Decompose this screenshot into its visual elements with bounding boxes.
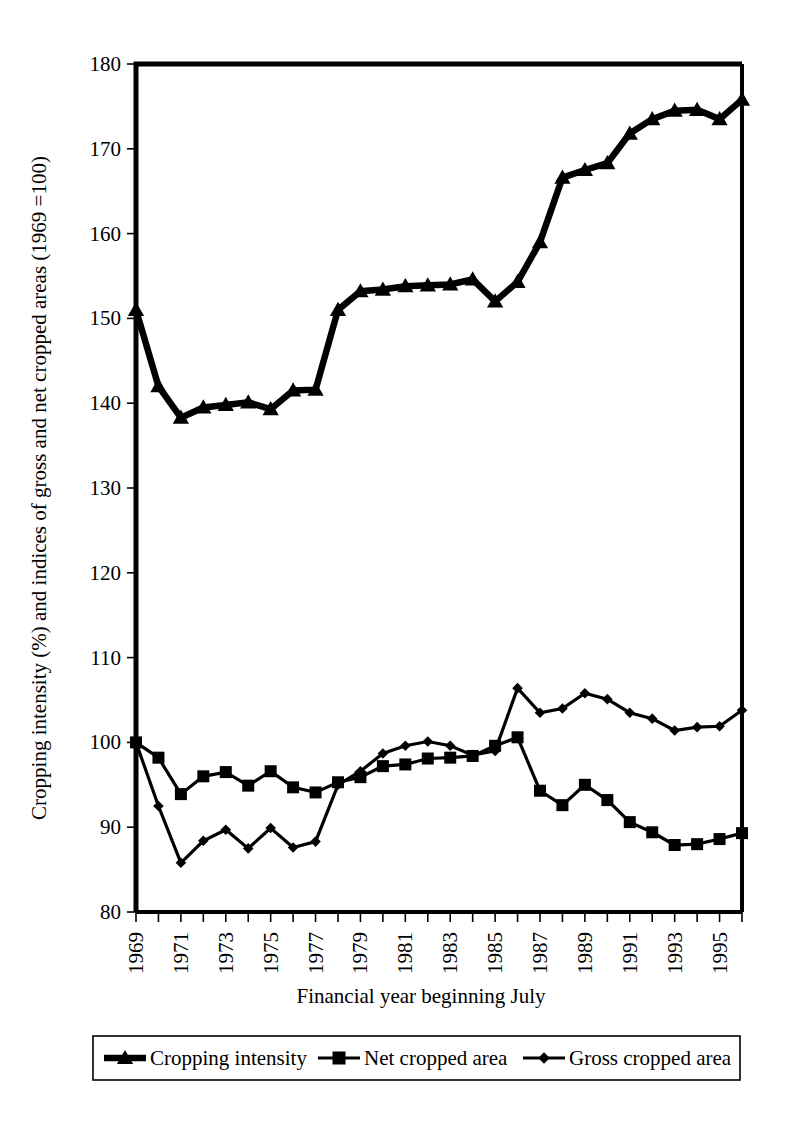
- x-tick-label: 1993: [663, 932, 687, 974]
- square-marker: [197, 770, 209, 782]
- y-tick-label: 80: [100, 900, 121, 924]
- square-marker: [579, 779, 591, 791]
- x-tick-label: 1977: [304, 932, 328, 974]
- square-marker: [287, 781, 299, 793]
- y-tick-label: 130: [90, 476, 122, 500]
- x-tick-label: 1973: [214, 932, 238, 974]
- y-tick-label: 160: [90, 222, 122, 246]
- y-tick-label: 150: [90, 306, 122, 330]
- series-line: [136, 100, 742, 418]
- square-marker: [152, 752, 164, 764]
- square-marker: [736, 827, 748, 839]
- series-net-cropped-area: [130, 731, 748, 851]
- square-marker: [624, 816, 636, 828]
- legend-label: Gross cropped area: [569, 1046, 732, 1070]
- x-tick-label: 1983: [438, 932, 462, 974]
- x-tick-label: 1981: [393, 932, 417, 974]
- y-tick-label: 120: [90, 561, 122, 585]
- x-tick-label: 1969: [124, 932, 148, 974]
- square-marker: [242, 780, 254, 792]
- x-tick-label: 1979: [348, 932, 372, 974]
- line-chart: 8090100110120130140150160170180196919711…: [0, 0, 788, 1127]
- square-marker: [556, 799, 568, 811]
- y-tick-label: 110: [90, 646, 121, 670]
- legend-label: Net cropped area: [364, 1046, 508, 1070]
- triangle-marker: [734, 91, 750, 105]
- diamond-marker: [422, 736, 433, 747]
- square-marker: [714, 833, 726, 845]
- triangle-marker: [532, 234, 548, 248]
- x-tick-label: 1985: [483, 932, 507, 974]
- x-tick-label: 1989: [573, 932, 597, 974]
- y-tick-label: 170: [90, 137, 122, 161]
- square-marker: [220, 766, 232, 778]
- chart-legend: Cropping intensityNet cropped areaGross …: [93, 1036, 740, 1080]
- diamond-marker: [310, 836, 321, 847]
- square-marker: [534, 785, 546, 797]
- square-marker: [646, 826, 658, 838]
- y-axis-title: Cropping intensity (%) and indices of gr…: [27, 156, 51, 820]
- square-marker: [444, 752, 456, 764]
- x-tick-label: 1975: [259, 932, 283, 974]
- square-marker: [669, 839, 681, 851]
- x-tick-label: 1991: [618, 932, 642, 974]
- diamond-marker: [153, 801, 164, 812]
- diamond-marker: [445, 741, 456, 752]
- square-marker: [310, 786, 322, 798]
- series-cropping-intensity: [128, 91, 750, 423]
- series-layer: [128, 91, 750, 868]
- figure-container: 8090100110120130140150160170180196919711…: [0, 0, 788, 1127]
- x-tick-label: 1971: [169, 932, 193, 974]
- square-marker: [691, 838, 703, 850]
- y-tick-label: 100: [90, 730, 122, 754]
- axes-layer: [127, 64, 742, 922]
- square-marker: [422, 753, 434, 765]
- square-marker: [512, 731, 524, 743]
- square-marker: [175, 788, 187, 800]
- plot-frame-left-top: [136, 64, 742, 912]
- square-marker: [333, 1052, 346, 1065]
- diamond-marker: [400, 741, 411, 752]
- square-marker: [601, 794, 613, 806]
- axis-labels-layer: 8090100110120130140150160170180196919711…: [27, 52, 732, 1008]
- square-marker: [265, 765, 277, 777]
- y-tick-label: 90: [100, 815, 121, 839]
- y-tick-label: 140: [90, 391, 122, 415]
- triangle-marker: [128, 302, 144, 316]
- x-tick-label: 1987: [528, 932, 552, 974]
- x-tick-label: 1995: [708, 932, 732, 974]
- x-axis-title: Financial year beginning July: [296, 984, 546, 1008]
- triangle-marker: [150, 378, 166, 392]
- diamond-marker: [692, 722, 703, 733]
- square-marker: [399, 758, 411, 770]
- legend-label: Cropping intensity: [150, 1046, 307, 1070]
- square-marker: [377, 760, 389, 772]
- y-tick-label: 180: [90, 52, 122, 76]
